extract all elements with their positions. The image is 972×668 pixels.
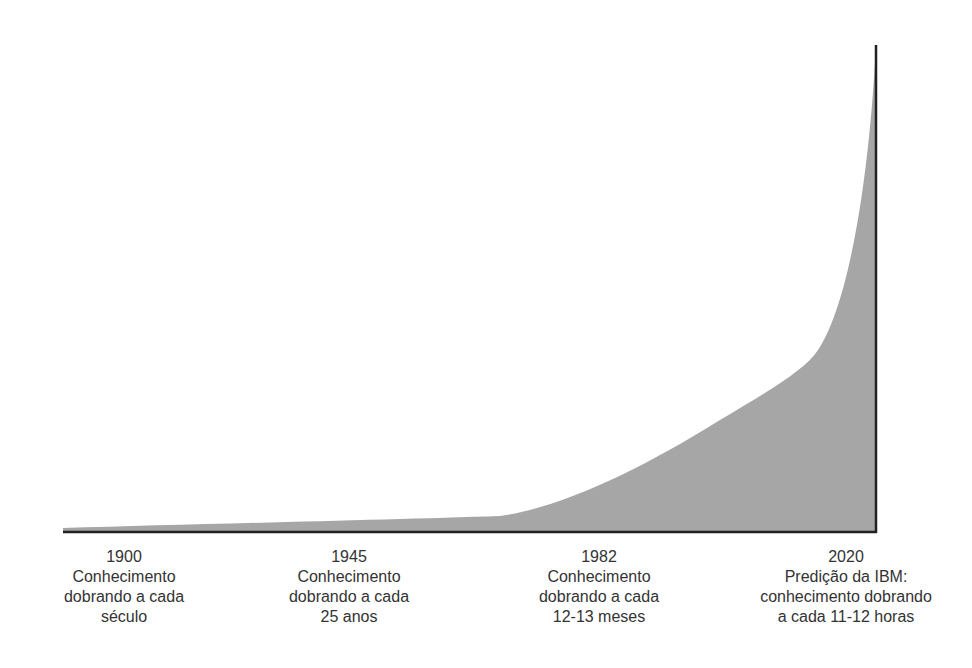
annotation-year: 1982 xyxy=(499,547,699,567)
annotation-1982: 1982 Conhecimento dobrando a cada 12-13 … xyxy=(499,547,699,627)
annotation-year: 2020 xyxy=(746,547,946,567)
knowledge-area xyxy=(63,45,876,533)
annotation-2020: 2020 Predição da IBM: conhecimento dobra… xyxy=(746,547,946,627)
annotation-1900: 1900 Conhecimento dobrando a cada século xyxy=(24,547,224,627)
annotation-1945: 1945 Conhecimento dobrando a cada 25 ano… xyxy=(249,547,449,627)
annotation-year: 1900 xyxy=(24,547,224,567)
annotation-year: 1945 xyxy=(249,547,449,567)
